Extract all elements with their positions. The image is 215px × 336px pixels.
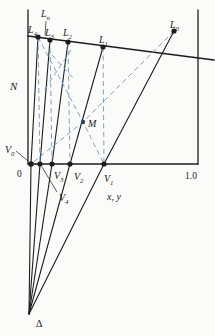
label-one: 1.0 (185, 171, 197, 181)
label-n: N (9, 80, 18, 92)
label-xy: x, y (106, 191, 121, 202)
point-v4 (37, 161, 42, 166)
point-m (81, 120, 85, 124)
label-delta: Δ (36, 318, 43, 329)
point-l2 (65, 39, 70, 44)
label-m: M (87, 118, 97, 129)
leaching-stage-diagram: NLnL4L3L2L1L0MV00V3V2V11.0V4x, yΔ (0, 0, 215, 336)
point-v2 (67, 161, 72, 166)
label-zero: 0 (17, 169, 22, 179)
paper-background (0, 0, 215, 336)
scanned-figure-page: NLnL4L3L2L1L0MV00V3V2V11.0V4x, yΔ (0, 0, 215, 336)
point-v0 (28, 161, 34, 167)
point-v1 (101, 161, 106, 166)
point-v3 (49, 161, 54, 166)
